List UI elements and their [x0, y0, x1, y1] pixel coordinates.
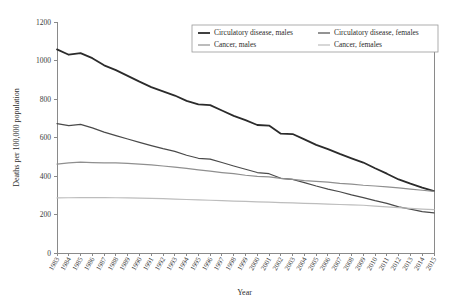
- x-tick-label: 1987: [94, 256, 108, 273]
- x-tick-label: 1992: [153, 256, 167, 273]
- x-tick-label: 1984: [59, 256, 73, 273]
- series-line-2: [57, 162, 434, 191]
- x-tick-label: 1997: [212, 256, 226, 273]
- x-tick-label: 1990: [130, 256, 144, 273]
- y-tick-label: 1000: [36, 56, 51, 65]
- y-tick-label: 600: [40, 133, 52, 142]
- x-tick-label: 1988: [106, 256, 120, 273]
- x-tick-label: 2008: [342, 256, 356, 273]
- x-tick-label: 2005: [306, 256, 320, 273]
- x-tick-label: 1989: [118, 256, 132, 273]
- y-tick-label: 0: [47, 249, 51, 258]
- line-chart: 020040060080010001200Deaths per 100,000 …: [0, 0, 461, 306]
- x-tick-label: 1986: [83, 256, 97, 273]
- legend-label-3: Cancer, females: [334, 40, 382, 49]
- chart-container: 020040060080010001200Deaths per 100,000 …: [0, 0, 461, 306]
- x-tick-label: 1999: [236, 256, 250, 273]
- x-tick-label: 2009: [354, 256, 368, 273]
- x-tick-label: 1983: [47, 256, 61, 273]
- x-tick-label: 2004: [295, 256, 309, 273]
- x-tick-label: 2010: [365, 256, 379, 273]
- x-tick-label: 2003: [283, 256, 297, 273]
- y-tick-label: 800: [40, 95, 52, 104]
- x-tick-label: 2011: [377, 256, 391, 272]
- x-tick-label: 2000: [248, 256, 262, 273]
- x-axis-title: Year: [237, 288, 252, 297]
- x-tick-label: 1995: [189, 256, 203, 273]
- x-tick-label: 1985: [71, 256, 85, 273]
- x-tick-label: 2015: [424, 256, 438, 273]
- x-tick-label: 1993: [165, 256, 179, 273]
- y-tick-label: 1200: [36, 18, 51, 27]
- legend-label-1: Circulatory disease, females: [334, 28, 419, 37]
- x-tick-label: 2013: [401, 256, 415, 273]
- x-tick-label: 2012: [389, 256, 403, 273]
- legend-label-2: Cancer, males: [214, 40, 256, 49]
- x-tick-label: 1998: [224, 256, 238, 273]
- y-axis-title: Deaths per 100,000 population: [12, 88, 21, 187]
- x-tick-label: 2006: [318, 256, 332, 273]
- y-tick-label: 200: [40, 210, 52, 219]
- x-tick-label: 2001: [259, 256, 273, 273]
- x-tick-label: 2014: [413, 256, 427, 273]
- legend-label-0: Circulatory disease, males: [214, 28, 293, 37]
- x-tick-label: 1996: [200, 256, 214, 273]
- x-tick-label: 2007: [330, 256, 344, 273]
- x-tick-label: 1991: [142, 256, 156, 273]
- x-tick-label: 1994: [177, 256, 191, 273]
- x-tick-label: 2002: [271, 256, 285, 273]
- series-line-3: [57, 198, 434, 210]
- y-tick-label: 400: [40, 172, 52, 181]
- series-line-1: [57, 124, 434, 213]
